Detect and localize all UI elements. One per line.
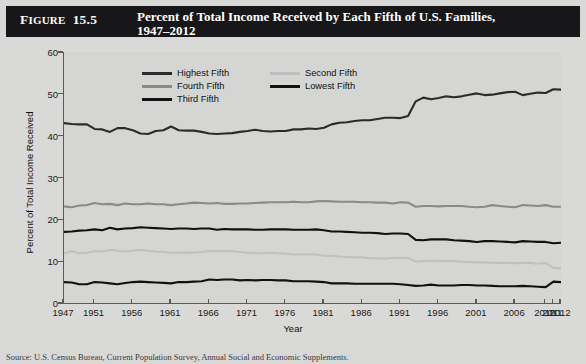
series-line (64, 201, 561, 207)
x-axis-tick-label: 2001 (465, 307, 486, 318)
x-axis-tickmark (169, 299, 170, 304)
x-axis-tick-label: 1966 (198, 307, 219, 318)
x-axis-tickmark (284, 299, 285, 304)
x-axis-tick-label: 1971 (236, 307, 257, 318)
legend-item[interactable]: Highest Fifth (142, 68, 229, 81)
figure-label-igure: IGURE (28, 14, 65, 26)
x-axis-tickmark (544, 299, 545, 304)
source-note: Source: U.S. Census Bureau, Current Popu… (6, 352, 580, 363)
x-axis-tickmark (399, 299, 400, 304)
x-axis-tick-label: 1956 (121, 307, 142, 318)
x-axis-tickmark (246, 299, 247, 304)
legend-label: Third Fifth (177, 94, 219, 105)
legend-color-swatch (142, 98, 172, 101)
y-axis-tickmarks (0, 52, 64, 303)
legend-color-swatch (142, 85, 172, 88)
series-line (64, 227, 561, 243)
x-axis-tickmark (513, 299, 514, 304)
figure-header-band: FIGURE 15.5 Percent of Total Income Rece… (6, 6, 580, 37)
x-axis-tick-label: 1991 (389, 307, 410, 318)
x-axis-tick-label: 1986 (351, 307, 372, 318)
figure-number: FIGURE 15.5 (20, 12, 97, 28)
legend-label: Lowest Fifth (305, 81, 355, 92)
x-axis-tickmark (208, 299, 209, 304)
x-axis-tickmark (552, 299, 553, 304)
legend-label: Highest Fifth (177, 68, 229, 79)
x-axis-tick-label: 2012 (549, 307, 570, 318)
legend-color-swatch (270, 72, 300, 75)
x-axis-tickmark (131, 299, 132, 304)
legend-color-swatch (142, 72, 172, 75)
x-axis-tick-label: 1976 (274, 307, 295, 318)
plot-area: Highest FifthFourth FifthThird FifthSeco… (63, 52, 561, 304)
legend-item[interactable]: Lowest Fifth (270, 81, 355, 94)
legend-color-swatch (270, 85, 300, 88)
legend-item[interactable]: Second Fifth (270, 68, 357, 81)
x-axis-tickmark (475, 299, 476, 304)
chart-legend: Highest FifthFourth FifthThird FifthSeco… (142, 68, 382, 110)
x-axis-tickmark (93, 299, 94, 304)
legend-label: Fourth Fifth (177, 81, 225, 92)
series-line (64, 280, 561, 288)
x-axis-tick-label: 1996 (427, 307, 448, 318)
x-axis-tick-label: 1947 (52, 307, 73, 318)
legend-item[interactable]: Third Fifth (142, 94, 219, 107)
x-axis-tickmark (437, 299, 438, 304)
series-line (64, 250, 561, 268)
x-axis-tick-label: 1981 (312, 307, 333, 318)
x-axis-tick-label: 2006 (504, 307, 525, 318)
x-axis-tickmark (559, 299, 560, 304)
figure-title: Percent of Total Income Received by Each… (137, 10, 573, 37)
x-axis-tick-label: 1951 (83, 307, 104, 318)
legend-label: Second Fifth (305, 68, 357, 79)
x-axis-label: Year (0, 323, 586, 334)
x-axis-tickmark (62, 299, 63, 304)
x-axis-tickmark (361, 299, 362, 304)
x-axis-tickmark (322, 299, 323, 304)
x-axis-ticks: 1947195119561961196619711976198119861991… (63, 305, 560, 321)
chart-container: Percent of Total Income Received 0102030… (0, 37, 586, 347)
figure-number-value: 15.5 (73, 12, 97, 27)
legend-item[interactable]: Fourth Fifth (142, 81, 225, 94)
x-axis-tick-label: 1961 (159, 307, 180, 318)
